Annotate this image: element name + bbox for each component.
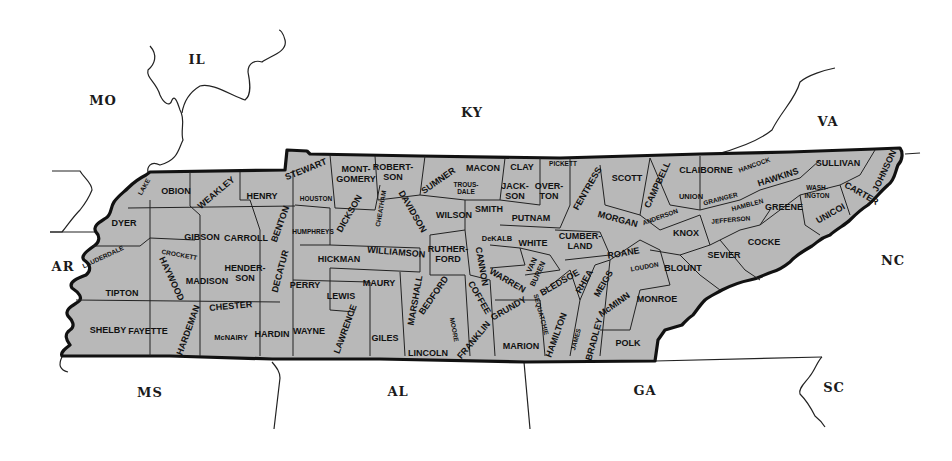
- county-label-macon: MACON: [466, 163, 500, 173]
- county-label-perry: PERRY: [290, 280, 321, 290]
- county-label-union: UNION: [679, 192, 703, 201]
- il-ky-river-border: [182, 30, 285, 113]
- mo-il-river-border: [148, 46, 183, 172]
- county-label-henry: HENRY: [246, 191, 277, 201]
- county-label-tipton: TIPTON: [106, 288, 139, 298]
- county-label-shelby: SHELBY: [90, 325, 127, 335]
- county-label-son: SON: [505, 191, 525, 201]
- county-label-lincoln: LINCOLN: [408, 348, 448, 358]
- county-label-jack: JACK-: [501, 181, 529, 191]
- county-label-hardin: HARDIN: [255, 329, 290, 339]
- county-label-cumber: CUMBER-: [559, 231, 602, 241]
- county-label-ton: TON: [540, 191, 559, 201]
- county-label-hickman: HICKMAN: [318, 254, 361, 264]
- county-label-madison: MADISON: [186, 276, 229, 286]
- county-label-polk: POLK: [615, 338, 641, 348]
- county-label-monroe: MONROE: [637, 294, 678, 304]
- county-label-ruther: RUTHER-: [428, 244, 469, 254]
- county-label-lewis: LEWIS: [327, 291, 356, 301]
- county-label-knox: KNOX: [673, 228, 699, 238]
- county-label-over: OVER-: [535, 181, 564, 191]
- county-label-putnam: PUTNAM: [512, 213, 551, 223]
- county-label-ington: INGTON: [804, 192, 829, 199]
- county-label-obion: OBION: [161, 186, 191, 196]
- ar-ms-river: [60, 357, 68, 372]
- county-label-white: WHITE: [519, 238, 548, 248]
- county-label-blount: BLOUNT: [664, 263, 702, 273]
- county-label-son: SON: [383, 172, 403, 182]
- state-label-il: IL: [188, 52, 205, 67]
- county-label-smith: SMITH: [475, 204, 503, 214]
- county-label-gomery: GOMERY: [336, 174, 376, 184]
- county-label-son: SON: [235, 273, 255, 283]
- ky-va-border: [710, 68, 835, 156]
- va-nc-border: [905, 153, 920, 154]
- county-label-dale: DALE: [457, 188, 475, 195]
- county-label-claiborne: CLAIBORNE: [679, 165, 733, 175]
- county-label-sevier: SEVIER: [707, 250, 741, 260]
- state-label-nc: NC: [881, 253, 905, 268]
- county-label-wash: WASH-: [806, 184, 828, 191]
- county-label-dyer: DYER: [111, 218, 137, 228]
- state-label-sc: SC: [823, 380, 845, 395]
- state-label-ky: KY: [461, 105, 483, 120]
- state-label-va: VA: [816, 114, 838, 129]
- mo-ar-border: [50, 171, 92, 232]
- ga-nc-border: [655, 357, 822, 361]
- state-label-ar: AR: [51, 259, 75, 274]
- county-label-carroll: CARROLL: [224, 233, 268, 243]
- ms-al-border: [272, 362, 280, 429]
- county-label-cocke: COCKE: [748, 237, 781, 247]
- state-label-mo: MO: [89, 93, 117, 108]
- county-label-houston: HOUSTON: [300, 195, 333, 202]
- county-label-scott: SCOTT: [612, 173, 643, 183]
- state-label-ga: GA: [633, 383, 656, 398]
- county-label-ford: FORD: [435, 254, 461, 264]
- county-label-robert: ROBERT-: [373, 162, 414, 172]
- county-label-pickett: PICKETT: [549, 160, 577, 167]
- county-label-mont: MONT-: [342, 164, 371, 174]
- county-label-trous: TROUS-: [454, 181, 479, 188]
- county-label-fayette: FAYETTE: [128, 326, 168, 336]
- tennessee-county-map: ILMOKYVAARNCMSALGASC LAKEOBIONWEAKLEYHEN…: [0, 0, 952, 461]
- state-label-al: AL: [386, 384, 408, 399]
- county-label-land: LAND: [568, 241, 593, 251]
- county-label-humphreys: HUMPHREYS: [292, 228, 334, 235]
- county-label-dekalb: DeKALB: [482, 234, 513, 243]
- county-label-maury: MAURY: [363, 278, 396, 288]
- county-label-wilson: WILSON: [436, 210, 472, 220]
- county-label-clay: CLAY: [510, 162, 534, 172]
- county-label-giles: GILES: [371, 333, 398, 343]
- county-label-greene: GREENE: [765, 202, 803, 212]
- state-label-ms: MS: [137, 385, 163, 400]
- ga-sc-border: [800, 357, 825, 427]
- county-label-mcnairy: McNAIRY: [214, 333, 247, 342]
- county-label-wayne: WAYNE: [293, 326, 325, 336]
- county-label-marion: MARION: [503, 341, 540, 351]
- county-label-gibson: GIBSON: [184, 232, 220, 242]
- county-label-hender: HENDER-: [224, 263, 265, 273]
- county-label-sullivan: SULLIVAN: [816, 158, 860, 168]
- al-ga-border: [524, 362, 530, 429]
